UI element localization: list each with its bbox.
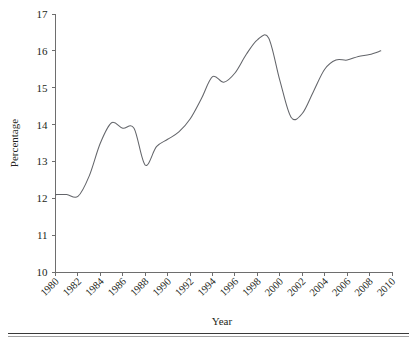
x-tick-label-1988: 1988 xyxy=(128,276,151,299)
y-tick-label-12: 12 xyxy=(37,192,48,204)
y-axis-title: Percentage xyxy=(8,119,20,167)
y-tick-label-13: 13 xyxy=(37,155,49,167)
line-chart: 1011121314151617 19801982198419861988199… xyxy=(0,0,417,343)
x-tick-label-1992: 1992 xyxy=(173,276,196,299)
y-axis-ticks xyxy=(52,14,56,272)
x-tick-label-1996: 1996 xyxy=(218,276,241,299)
y-tick-label-15: 15 xyxy=(37,82,49,94)
x-tick-label-2008: 2008 xyxy=(352,276,375,299)
x-tick-label-1984: 1984 xyxy=(83,275,106,298)
x-tick-label-2000: 2000 xyxy=(263,276,286,299)
x-tick-label-1980: 1980 xyxy=(38,276,61,299)
x-tick-label-2004: 2004 xyxy=(307,275,330,298)
x-tick-label-1986: 1986 xyxy=(106,276,129,299)
x-tick-label-2006: 2006 xyxy=(330,276,353,299)
x-axis-title: Year xyxy=(212,315,233,327)
y-tick-label-11: 11 xyxy=(37,229,48,241)
y-axis-tick-labels: 1011121314151617 xyxy=(37,8,49,278)
chart-figure: 1011121314151617 19801982198419861988199… xyxy=(0,0,417,343)
data-series-line xyxy=(56,35,381,198)
y-tick-label-14: 14 xyxy=(37,119,49,131)
y-tick-label-16: 16 xyxy=(37,45,49,57)
x-tick-label-1998: 1998 xyxy=(240,276,263,299)
x-tick-label-2010: 2010 xyxy=(375,276,398,299)
x-axis-tick-labels: 1980198219841986198819901992199419961998… xyxy=(38,275,397,298)
x-tick-label-1990: 1990 xyxy=(150,276,173,299)
x-tick-label-2002: 2002 xyxy=(285,276,308,299)
y-tick-label-17: 17 xyxy=(37,8,49,20)
y-tick-label-10: 10 xyxy=(37,266,49,278)
x-tick-label-1982: 1982 xyxy=(61,276,84,299)
x-tick-label-1994: 1994 xyxy=(195,275,218,298)
